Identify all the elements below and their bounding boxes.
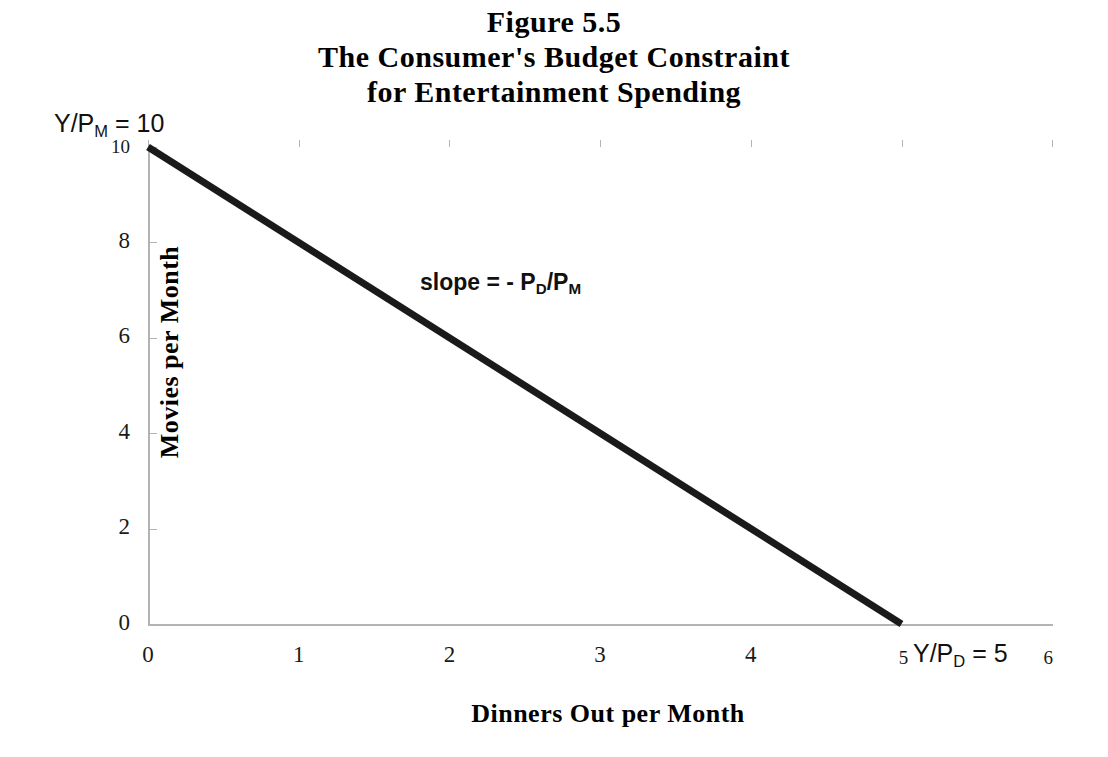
y-axis-title: Movies per Month — [155, 72, 185, 632]
x-intercept-subscript: D — [953, 652, 965, 670]
slope-annotation: slope = - PD/PM — [420, 269, 581, 296]
x-axis-line — [148, 624, 1053, 626]
y-intercept-prefix: Y/P — [54, 109, 94, 137]
slope-subscript-d: D — [536, 280, 547, 297]
x-intercept-suffix: = 5 — [965, 639, 1007, 667]
x-tick-label-4: 4 — [731, 642, 771, 668]
x-tick-4 — [751, 140, 752, 147]
x-intercept-prefix: Y/P — [913, 639, 953, 667]
x-tick-3 — [600, 140, 601, 147]
x-tick-label-2: 2 — [429, 642, 469, 668]
y-tick-label-2: 2 — [90, 514, 130, 540]
x-tick-label-0: 0 — [128, 642, 168, 668]
x-tick-label-3: 3 — [580, 642, 620, 668]
x-tick-6 — [1052, 140, 1053, 147]
x-tick-1 — [299, 140, 300, 147]
x-axis-title: Dinners Out per Month — [258, 699, 958, 729]
slope-mid: /P — [547, 269, 569, 295]
y-tick-label-8: 8 — [90, 228, 130, 254]
x-tick-label-1: 1 — [279, 642, 319, 668]
x-intercept-annotation: Y/PD = 5 — [913, 639, 1008, 668]
budget-constraint-line — [142, 141, 1062, 636]
x-tick-label-6: 6 — [1028, 647, 1068, 669]
y-tick-label-0: 0 — [90, 610, 130, 636]
y-axis-line — [148, 147, 150, 626]
figure-title-line-1: Figure 5.5 — [0, 4, 1108, 39]
figure-page: Figure 5.5 The Consumer's Budget Constra… — [0, 0, 1108, 757]
x-tick-5 — [902, 140, 903, 147]
y-intercept-subscript: M — [94, 122, 108, 140]
y-tick-label-4: 4 — [90, 419, 130, 445]
y-intercept-suffix: = 10 — [108, 109, 164, 137]
y-intercept-annotation: Y/PM = 10 — [54, 109, 164, 138]
x-tick-0 — [148, 140, 149, 147]
x-tick-2 — [449, 140, 450, 147]
plot-area: 0 2 4 6 8 10 0 1 2 3 4 5 6 Movies per Mo… — [148, 147, 1052, 625]
figure-title-line-2: The Consumer's Budget Constraint — [0, 39, 1108, 74]
slope-lead: slope = - P — [420, 269, 536, 295]
slope-subscript-m: M — [568, 280, 581, 297]
y-tick-label-6: 6 — [90, 323, 130, 349]
